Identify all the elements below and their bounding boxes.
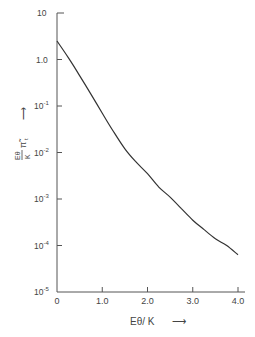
y-title-denominator: K [24,154,31,159]
y-tick-label: 10 [37,8,47,18]
x-tick-label: 2.0 [141,296,154,306]
y-ticks: 101.010-110-210-310-410-5 [34,8,62,297]
y-tick-label: 10-2 [34,147,49,158]
x-tick-label: 0 [54,296,59,306]
y-tick-label: 1.0 [36,55,48,65]
y-tick-label: 10-4 [34,240,49,251]
x-tick-label: 4.0 [232,296,245,306]
chart: 101.010-110-210-310-410-5 01.02.03.04.0 … [0,0,255,337]
y-title-subscript: t [23,138,29,140]
y-tick-label: 10-3 [34,193,49,204]
y-title-numerator: Eθ [14,151,21,160]
x-tick-label: 1.0 [96,296,109,306]
x-ticks: 01.02.03.04.0 [54,287,244,306]
x-axis-title: Eθ/ K [130,316,155,327]
y-tick-label: 10-5 [34,286,49,297]
y-tick-label: 10-1 [34,100,49,111]
y-axis-title: Eθ K π̃ t ⟶ [8,72,34,162]
x-tick-label: 3.0 [186,296,199,306]
plot-area: 101.010-110-210-310-410-5 01.02.03.04.0 … [0,0,255,337]
y-axis-arrow: ⟶ [18,107,28,120]
x-axis-arrow: ⟶ [172,316,186,327]
data-curve [57,41,238,255]
